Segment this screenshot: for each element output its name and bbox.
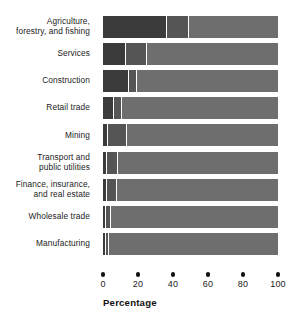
stacked-bar[interactable] xyxy=(103,43,278,65)
category-label: Retail trade xyxy=(0,103,96,113)
stacked-bar[interactable] xyxy=(103,124,278,146)
bar-segment-2 xyxy=(128,70,135,92)
x-axis-title: Percentage xyxy=(103,297,157,308)
bar-segment-1 xyxy=(103,16,166,38)
stacked-bar[interactable] xyxy=(103,97,278,119)
tick-label: 80 xyxy=(228,279,258,289)
bar-track xyxy=(103,97,278,119)
chart-plot-area: Agriculture, forestry, and fishingServic… xyxy=(0,13,298,258)
bar-segment-3 xyxy=(121,97,278,119)
bar-segment-3 xyxy=(116,179,278,201)
stacked-bar[interactable] xyxy=(103,179,278,201)
chart-row: Finance, insurance, and real estate xyxy=(0,176,298,203)
x-axis-tick: 80 xyxy=(228,272,258,289)
tick-dot-marker xyxy=(171,272,176,277)
x-axis-tick: 100 xyxy=(263,272,293,289)
chart-row: Manufacturing xyxy=(0,231,298,258)
bar-track xyxy=(103,206,278,228)
chart-row: Services xyxy=(0,40,298,67)
bar-segment-2 xyxy=(125,43,146,65)
bar-track xyxy=(103,124,278,146)
bar-segment-3 xyxy=(146,43,278,65)
bar-segment-3 xyxy=(110,206,278,228)
stacked-bar[interactable] xyxy=(103,152,278,174)
category-label: Services xyxy=(0,49,96,59)
bar-segment-3 xyxy=(126,124,278,146)
bar-segment-2 xyxy=(166,16,188,38)
tick-label: 0 xyxy=(88,279,118,289)
bar-segment-1 xyxy=(103,70,128,92)
bar-segment-2 xyxy=(107,124,126,146)
bar-segment-3 xyxy=(136,70,279,92)
bar-segment-3 xyxy=(108,233,279,255)
chart-row: Transport and public utilities xyxy=(0,149,298,176)
category-label: Wholesale trade xyxy=(0,212,96,222)
stacked-bar[interactable] xyxy=(103,16,278,38)
tick-dot-marker xyxy=(276,272,281,277)
tick-dot-marker xyxy=(101,272,106,277)
category-label: Manufacturing xyxy=(0,239,96,249)
category-label: Finance, insurance, and real estate xyxy=(0,180,96,199)
bar-track xyxy=(103,16,278,38)
tick-dot-marker xyxy=(241,272,246,277)
bar-track xyxy=(103,152,278,174)
chart-row: Agriculture, forestry, and fishing xyxy=(0,13,298,40)
bar-track xyxy=(103,179,278,201)
stacked-bar[interactable] xyxy=(103,233,278,255)
tick-dot-marker xyxy=(206,272,211,277)
tick-label: 100 xyxy=(263,279,293,289)
x-axis-tick: 40 xyxy=(158,272,188,289)
category-label: Construction xyxy=(0,76,96,86)
tick-label: 60 xyxy=(193,279,223,289)
bar-track xyxy=(103,70,278,92)
chart-row: Wholesale trade xyxy=(0,203,298,230)
stacked-bar[interactable] xyxy=(103,206,278,228)
tick-dot-marker xyxy=(136,272,141,277)
x-axis-tick: 20 xyxy=(123,272,153,289)
bar-segment-2 xyxy=(106,179,116,201)
bar-segment-3 xyxy=(117,152,278,174)
bar-segment-3 xyxy=(188,16,278,38)
chart-row: Mining xyxy=(0,122,298,149)
x-axis-tick: 60 xyxy=(193,272,223,289)
bar-segment-2 xyxy=(106,152,117,174)
category-label: Mining xyxy=(0,131,96,141)
bar-segment-1 xyxy=(103,97,113,119)
bar-segment-1 xyxy=(103,43,125,65)
tick-label: 40 xyxy=(158,279,188,289)
bar-segment-2 xyxy=(113,97,121,119)
stacked-bar-chart: Agriculture, forestry, and fishingServic… xyxy=(0,0,298,318)
chart-row: Construction xyxy=(0,67,298,94)
chart-row: Retail trade xyxy=(0,95,298,122)
x-axis-tick: 0 xyxy=(88,272,118,289)
bar-track xyxy=(103,233,278,255)
tick-label: 20 xyxy=(123,279,153,289)
category-label: Transport and public utilities xyxy=(0,153,96,172)
bar-track xyxy=(103,43,278,65)
stacked-bar[interactable] xyxy=(103,70,278,92)
category-label: Agriculture, forestry, and fishing xyxy=(0,17,96,36)
